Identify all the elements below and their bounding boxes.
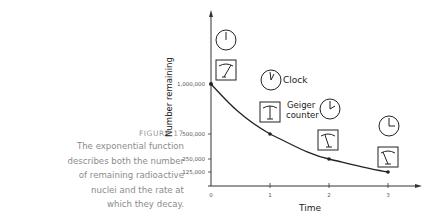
x-tick-label: 2	[327, 192, 331, 198]
clock-icon	[261, 70, 281, 90]
y-axis-label: Number remaining	[164, 57, 174, 137]
y-tick-label: 125,000	[182, 169, 205, 175]
x-tick-label: 0	[209, 192, 213, 198]
y-axis	[209, 10, 213, 186]
data-points	[209, 82, 390, 174]
y-tick-label: 500,000	[182, 131, 205, 137]
geiger-label: Geiger	[287, 100, 316, 110]
y-tick-label: 1,000,000	[177, 81, 205, 87]
geiger-counter-icon	[318, 130, 338, 150]
clock-icon	[216, 30, 236, 50]
clock-icon	[379, 116, 399, 136]
geiger-counter-icon	[260, 102, 280, 122]
x-axis	[208, 184, 422, 188]
x-tick-label: 3	[386, 192, 390, 198]
x-axis-label: Time	[298, 203, 321, 213]
geiger-counter-icon	[378, 147, 398, 167]
geiger-label: counter	[286, 110, 319, 120]
decay-curve	[211, 84, 388, 172]
x-tick-label: 1	[268, 192, 272, 198]
geiger-counter-icon	[216, 60, 236, 80]
y-tick-label: 250,000	[182, 156, 205, 162]
clock-icon	[320, 99, 340, 119]
clock-label: Clock	[283, 75, 308, 85]
decay-chart: 1,000,000 500,000 250,000 125,000 0 1 2 …	[0, 0, 442, 222]
